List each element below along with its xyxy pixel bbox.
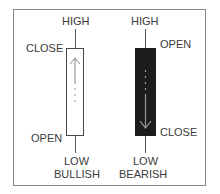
bearish-close-label: CLOSE (160, 126, 197, 138)
bearish-title: BEARISH (119, 168, 167, 180)
bullish-open-label: OPEN (31, 132, 62, 144)
bullish-close-label: CLOSE (26, 42, 63, 54)
bearish-high-label: HIGH (131, 15, 159, 27)
bearish-lower-wick (145, 136, 146, 153)
diagram-frame (13, 9, 206, 186)
down-arrow-icon (135, 48, 156, 136)
bullish-high-label: HIGH (62, 15, 90, 27)
bullish-lower-wick (75, 136, 76, 153)
bullish-low-label: LOW (64, 155, 89, 167)
bearish-upper-wick (145, 29, 146, 48)
up-arrow-icon (66, 48, 84, 136)
bullish-title: BULLISH (54, 168, 100, 180)
bearish-open-label: OPEN (160, 38, 191, 50)
bearish-low-label: LOW (133, 155, 158, 167)
bullish-upper-wick (75, 29, 76, 48)
